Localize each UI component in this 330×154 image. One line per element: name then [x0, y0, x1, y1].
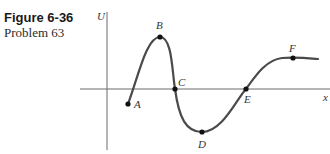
label-e: E: [243, 93, 251, 105]
point-d: [199, 129, 204, 134]
point-c: [172, 86, 177, 91]
label-c: C: [178, 76, 186, 88]
label-f: F: [288, 42, 296, 54]
point-a: [125, 101, 130, 106]
u-axis-label: U: [97, 10, 106, 22]
point-b: [157, 34, 162, 39]
point-f: [290, 55, 295, 60]
point-e: [243, 86, 248, 91]
label-d: D: [197, 138, 206, 150]
label-b: B: [156, 19, 163, 31]
label-a: A: [133, 98, 141, 110]
x-axis-label: x: [322, 91, 328, 103]
potential-energy-diagram: U x A B C D E F: [0, 0, 330, 154]
